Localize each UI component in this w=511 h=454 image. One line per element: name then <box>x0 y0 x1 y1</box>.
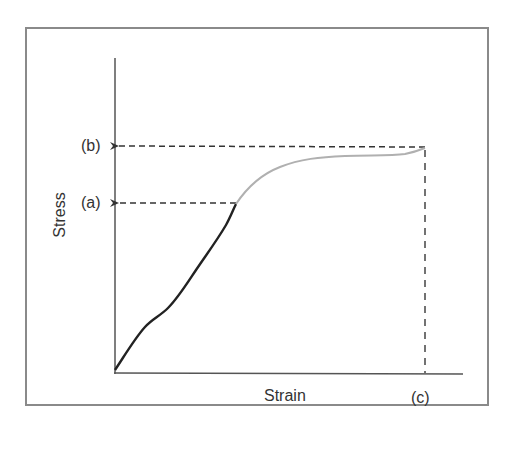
plastic-curve <box>236 148 425 204</box>
stress-strain-plot <box>0 0 511 454</box>
label-a: (a) <box>81 195 101 211</box>
label-b: (b) <box>81 138 101 154</box>
x-axis <box>114 373 463 374</box>
label-c: (c) <box>411 390 430 406</box>
x-axis-label: Strain <box>264 388 306 404</box>
dashed-line-b <box>119 146 425 147</box>
y-axis-label: Stress <box>51 192 69 237</box>
elastic-curve <box>115 204 236 370</box>
